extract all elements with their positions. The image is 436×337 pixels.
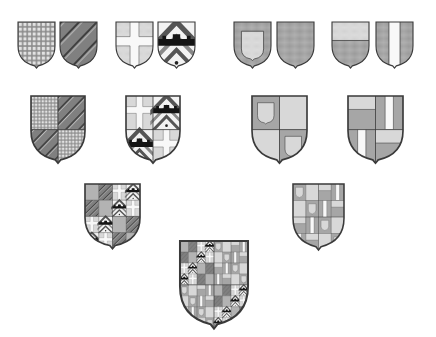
shield-bendy — [60, 22, 97, 68]
shield-chief — [332, 22, 369, 68]
shield-quartered-4 — [348, 96, 403, 163]
shield-chequy — [18, 22, 55, 68]
shield-cross — [116, 22, 153, 68]
shield-grand-quartered-right — [293, 184, 344, 250]
shield-final-combined — [179, 240, 249, 330]
shield-quartered-1 — [31, 96, 85, 163]
heraldry-diagram — [0, 0, 436, 337]
shield-plain — [277, 22, 314, 68]
shield-quartered-2 — [123, 93, 182, 169]
shield-inescutcheon — [234, 22, 271, 68]
shield-grand-quartered-left — [84, 183, 142, 252]
shield-quartered-3 — [252, 96, 307, 163]
shield-chevronny-fess — [154, 18, 198, 76]
shield-pale — [376, 22, 413, 68]
